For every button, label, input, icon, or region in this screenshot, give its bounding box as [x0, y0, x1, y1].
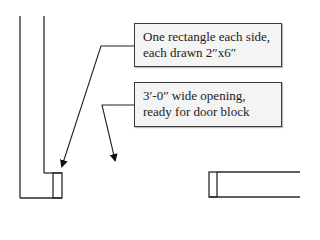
- callout-wall-end-studs: One rectangle each side, each drawn 2″x6…: [134, 23, 282, 67]
- callout-1-line-2: each drawn 2″x6″: [143, 45, 273, 61]
- callout-door-opening: 3′-0″ wide opening, ready for door block: [134, 82, 282, 127]
- leader-line-1: [62, 46, 134, 166]
- left-end-stud-rect: [53, 173, 62, 198]
- callout-1-line-1: One rectangle each side,: [143, 29, 273, 45]
- right-end-stud-rect: [209, 172, 217, 197]
- leader-line-2: [102, 105, 134, 160]
- callout-2-line-2: ready for door block: [143, 104, 273, 120]
- callout-2-line-1: 3′-0″ wide opening,: [143, 88, 273, 104]
